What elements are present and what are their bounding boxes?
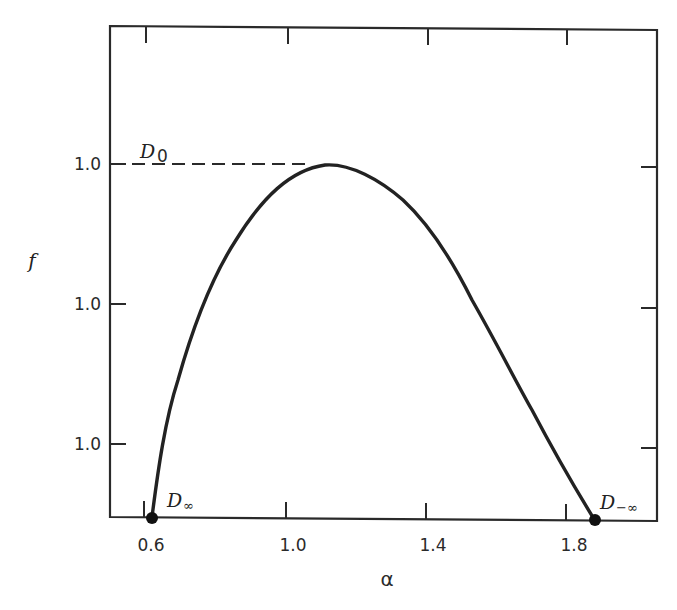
x-tick-label: 0.6 bbox=[137, 535, 164, 555]
dinf-marker bbox=[146, 512, 158, 524]
d0-annotation: D 0 bbox=[139, 140, 168, 166]
svg-text:∞: ∞ bbox=[183, 498, 194, 513]
left-ticks bbox=[110, 164, 126, 444]
x-axis-label: α bbox=[380, 567, 393, 591]
svg-text:0: 0 bbox=[157, 146, 168, 166]
falpha-chart: 0.6 1.0 1.4 1.8 1.0 1.0 1.0 α f D 0 D ∞ … bbox=[0, 0, 677, 610]
plot-frame bbox=[110, 26, 657, 521]
x-tick-label: 1.0 bbox=[279, 535, 306, 555]
x-tick-label: 1.8 bbox=[560, 535, 587, 555]
y-tick-label: 1.0 bbox=[74, 434, 101, 454]
dneginf-marker bbox=[589, 514, 601, 526]
svg-text:D: D bbox=[599, 491, 615, 513]
right-ticks bbox=[641, 167, 657, 448]
falpha-curve bbox=[152, 165, 594, 519]
svg-text:D: D bbox=[166, 489, 182, 511]
y-tick-label: 1.0 bbox=[74, 154, 101, 174]
y-tick-label: 1.0 bbox=[74, 294, 101, 314]
dneginf-annotation: D −∞ bbox=[599, 491, 638, 515]
svg-text:−∞: −∞ bbox=[616, 500, 638, 515]
svg-text:D: D bbox=[139, 140, 155, 162]
dinf-annotation: D ∞ bbox=[166, 489, 194, 513]
y-axis-label: f bbox=[26, 249, 39, 273]
x-tick-label: 1.4 bbox=[419, 535, 446, 555]
